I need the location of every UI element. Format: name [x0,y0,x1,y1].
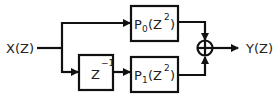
filter-block-p0: P 0 (Z 2 ) [131,6,178,41]
p0-arg-exponent: 2 [164,12,170,22]
adder-circle-plus-icon [198,41,213,56]
delay-base: Z [91,67,100,82]
p0-name: P [134,17,142,32]
p1-arg-exponent: 2 [164,63,170,73]
output-label: Y(Z) [245,41,273,56]
p0-arg: (Z [148,17,162,32]
p1-close: ) [170,68,175,83]
p1-subscript: 1 [142,75,148,85]
delay-block: Z −1 [79,55,114,90]
input-label: X(Z) [6,41,34,56]
p1-arg: (Z [148,68,162,83]
p1-name: P [134,68,142,83]
delay-exponent: −1 [101,58,114,68]
filter-block-p1: P 1 (Z 2 ) [131,57,178,92]
p0-close: ) [170,17,175,32]
polyphase-block-diagram: X(Z) Z −1 P 0 (Z 2 ) P 1 (Z 2 ) [0,0,277,97]
